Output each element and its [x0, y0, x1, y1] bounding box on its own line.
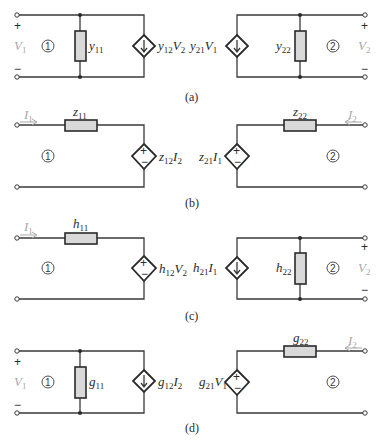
- minus-sign: −: [361, 62, 368, 76]
- port-number-1: 1: [45, 377, 51, 388]
- resistor-y22: [295, 31, 306, 61]
- minus-sign: −: [141, 155, 148, 169]
- label-i1: I1: [23, 107, 33, 124]
- label-g22: g22: [293, 330, 309, 347]
- terminal-1-bottom: [15, 297, 19, 301]
- label-h21I1: h21I1: [193, 260, 217, 277]
- label-g21V1: g21V1: [199, 374, 227, 391]
- label-z21I1: z21I1: [198, 149, 222, 166]
- terminal-2-top: [363, 13, 367, 17]
- terminal-1-top: [15, 349, 19, 353]
- minus-sign: −: [14, 398, 21, 412]
- label-y11: y11: [87, 38, 103, 55]
- label-g12I2: g12I2: [158, 374, 182, 391]
- minus-sign: −: [361, 283, 368, 297]
- two-port-equivalent-circuits: + − V1 1 y11 y12V2 + − V2 2 y22 y21V1 (a…: [0, 0, 382, 442]
- minus-sign: −: [14, 62, 21, 76]
- label-h11: h11: [73, 216, 88, 233]
- port-number-2: 2: [330, 151, 336, 162]
- circuit-d: + − V1 1 g11 g12I2 + − I2 2 g22 g21V1 (d…: [14, 330, 367, 435]
- caption-a: (a): [185, 90, 198, 104]
- terminal-1-top: [15, 236, 19, 240]
- terminal-1-bottom: [15, 185, 19, 189]
- terminal-2-top: [363, 123, 367, 127]
- terminal-2-bottom: [363, 297, 367, 301]
- port-number-2: 2: [330, 377, 336, 388]
- resistor-g11: [75, 367, 86, 398]
- caption-b: (b): [185, 196, 199, 210]
- resistor-g22: [284, 346, 316, 357]
- label-z22: z22: [292, 104, 307, 121]
- minus-sign: −: [234, 155, 241, 169]
- plus-sign: +: [14, 19, 21, 33]
- label-h22: h22: [276, 260, 292, 277]
- caption-d: (d): [185, 421, 199, 435]
- minus-sign: −: [234, 381, 241, 395]
- terminal-1-top: [15, 13, 19, 17]
- label-i2: I2: [347, 333, 357, 350]
- terminal-2-bottom: [363, 185, 367, 189]
- label-y12V2: y12V2: [156, 38, 185, 55]
- minus-sign: −: [141, 267, 148, 281]
- resistor-z22: [284, 120, 316, 131]
- resistor-h22: [295, 253, 306, 284]
- label-v2: V2: [358, 260, 370, 277]
- resistor-y11: [75, 31, 86, 61]
- plus-sign: +: [14, 355, 21, 369]
- resistor-h11: [65, 233, 97, 244]
- plus-sign: +: [361, 19, 368, 33]
- label-h12V2: h12V2: [159, 261, 187, 278]
- label-v2: V2: [358, 38, 370, 55]
- port-number-1: 1: [45, 41, 51, 52]
- caption-c: (c): [185, 309, 198, 323]
- circuit-a: + − V1 1 y11 y12V2 + − V2 2 y22 y21V1 (a…: [14, 13, 370, 104]
- terminal-1-top: [15, 123, 19, 127]
- port-number-2: 2: [330, 41, 336, 52]
- port-number-1: 1: [45, 151, 51, 162]
- label-g11: g11: [89, 374, 104, 391]
- circuit-c: + − I1 1 h11 h12V2 + − V2 2 h22 h21I1 (c…: [15, 216, 371, 323]
- label-y21V1: y21V1: [188, 38, 217, 55]
- label-i2: I2: [347, 107, 357, 124]
- label-y22: y22: [274, 38, 291, 55]
- port-number-2: 2: [330, 263, 336, 274]
- terminal-2-bottom: [363, 411, 367, 415]
- label-z11: z11: [72, 104, 87, 121]
- label-v1: V1: [14, 38, 26, 55]
- resistor-z11: [65, 120, 97, 131]
- label-v1: V1: [14, 374, 26, 391]
- port-number-1: 1: [45, 263, 51, 274]
- label-i1: I1: [23, 219, 33, 236]
- circuit-b: + − I1 1 z11 z12I2 + − I2 2 z22 z21I1 (b…: [15, 104, 367, 210]
- plus-sign: +: [361, 240, 368, 254]
- label-z12I2: z12I2: [158, 149, 182, 166]
- terminal-2-top: [363, 349, 367, 353]
